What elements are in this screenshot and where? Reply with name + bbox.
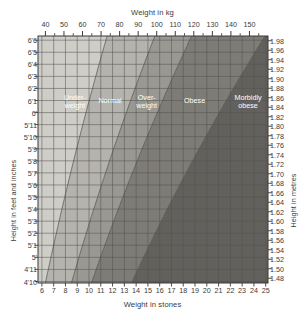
metres-tick-label: 1.62 xyxy=(270,207,284,216)
feet-tick-label: 6'5 xyxy=(28,48,37,57)
kg-tick-label: 120 xyxy=(188,20,200,29)
metres-tick-label: 1.84 xyxy=(270,103,284,112)
band-label-obese: Obese xyxy=(184,96,205,105)
feet-tick-label: 5'7 xyxy=(28,168,37,177)
feet-tick-label: 6'4 xyxy=(28,60,37,69)
feet-tick-label: 6'2 xyxy=(28,84,37,93)
feet-tick-label: 5'11 xyxy=(24,120,37,129)
feet-tick-label: 5'2 xyxy=(28,229,37,238)
metres-tick-label: 1.92 xyxy=(270,65,284,74)
stone-tick-label: 14 xyxy=(132,286,140,295)
metres-tick-label: 1.96 xyxy=(270,46,284,55)
stone-tick-label: 22 xyxy=(226,286,234,295)
stone-tick-label: 7 xyxy=(52,286,56,295)
metres-tick-label: 1.90 xyxy=(270,74,284,83)
feet-tick-label: 4'11 xyxy=(24,265,37,274)
metres-tick-label: 1.60 xyxy=(270,217,284,226)
kg-tick-label: 70 xyxy=(97,20,105,29)
feet-tick-label: 5'3 xyxy=(28,217,37,226)
stone-tick-label: 25 xyxy=(262,286,270,295)
feet-tick-label: 5'5 xyxy=(28,193,37,202)
stone-tick-label: 17 xyxy=(168,286,176,295)
feet-tick-label: 5'9 xyxy=(28,144,37,153)
band-label-under-weight: weight xyxy=(64,101,86,110)
stone-tick-label: 23 xyxy=(238,286,246,295)
metres-tick-label: 1.64 xyxy=(270,198,284,207)
feet-tick-label: 6'6 xyxy=(28,36,37,45)
kg-tick-label: 130 xyxy=(206,20,218,29)
stone-tick-label: 20 xyxy=(203,286,211,295)
kg-tick-label: 40 xyxy=(41,20,49,29)
band-label-normal: Normal xyxy=(98,96,122,105)
feet-tick-label: 5'4 xyxy=(28,205,37,214)
metres-tick-label: 1.58 xyxy=(270,226,284,235)
stone-tick-label: 12 xyxy=(109,286,117,295)
stone-tick-label: 9 xyxy=(75,286,79,295)
kg-tick-label: 110 xyxy=(170,20,181,29)
metres-tick-label: 1.76 xyxy=(270,141,284,150)
kg-tick-label: 60 xyxy=(79,20,87,29)
stone-tick-label: 15 xyxy=(144,286,152,295)
metres-tick-label: 1.50 xyxy=(270,264,284,273)
feet-tick-label: 5'10 xyxy=(24,132,37,141)
metres-tick-label: 1.54 xyxy=(270,245,284,254)
feet-tick-label: 6'3 xyxy=(28,72,37,81)
kg-tick-label: 80 xyxy=(116,20,124,29)
stone-tick-label: 21 xyxy=(215,286,223,295)
feet-tick-label: 5' xyxy=(32,253,37,262)
feet-tick-label: 5'8 xyxy=(28,156,37,165)
metres-tick-label: 1.82 xyxy=(270,112,284,121)
feet-tick-label: 5'1 xyxy=(28,241,37,250)
feet-tick-label: 5'6 xyxy=(28,181,37,190)
metres-tick-label: 1.98 xyxy=(270,36,284,45)
metres-tick-label: 1.78 xyxy=(270,131,284,140)
metres-tick-label: 1.74 xyxy=(270,150,284,159)
metres-tick-label: 1.70 xyxy=(270,169,284,178)
stone-tick-label: 8 xyxy=(64,286,68,295)
band-label-morbidly-obese: obese xyxy=(238,101,258,110)
stone-tick-label: 13 xyxy=(120,286,128,295)
band-label-over-weight: weight xyxy=(135,101,157,110)
stone-tick-label: 24 xyxy=(250,286,258,295)
metres-tick-label: 1.86 xyxy=(270,93,284,102)
stone-tick-label: 19 xyxy=(191,286,199,295)
metres-tick-label: 1.66 xyxy=(270,188,284,197)
metres-tick-label: 1.48 xyxy=(270,274,284,283)
feet-tick-label: 4'10 xyxy=(24,277,37,286)
stone-tick-label: 10 xyxy=(85,286,93,295)
metres-tick-label: 1.56 xyxy=(270,236,284,245)
metres-tick-label: 1.80 xyxy=(270,122,284,131)
stone-tick-label: 11 xyxy=(97,286,104,295)
kg-tick-label: 150 xyxy=(244,20,256,29)
kg-tick-label: 100 xyxy=(151,20,163,29)
kg-tick-label: 90 xyxy=(134,20,142,29)
kg-tick-label: 50 xyxy=(60,20,68,29)
stone-tick-label: 6 xyxy=(40,286,44,295)
feet-tick-label: 6' xyxy=(32,108,37,117)
metres-tick-label: 1.88 xyxy=(270,84,284,93)
metres-tick-label: 1.68 xyxy=(270,179,284,188)
metres-tick-label: 1.52 xyxy=(270,255,284,264)
stone-tick-label: 18 xyxy=(179,286,187,295)
plot-area: Under-weightNormalOver-weightObeseMorbid… xyxy=(0,0,305,318)
kg-tick-label: 140 xyxy=(225,20,237,29)
metres-tick-label: 1.72 xyxy=(270,160,284,169)
metres-tick-label: 1.94 xyxy=(270,55,284,64)
feet-tick-label: 6'1 xyxy=(28,96,37,105)
stone-tick-label: 16 xyxy=(156,286,164,295)
bmi-chart: Weight in kg Weight in stones Height in … xyxy=(0,0,305,318)
